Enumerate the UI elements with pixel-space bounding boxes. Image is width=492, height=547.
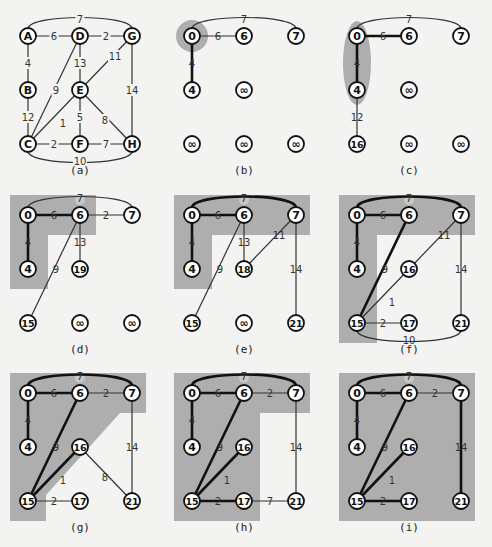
panel-h: 7624914127067416151721(h) xyxy=(174,370,310,534)
node-G: 7 xyxy=(124,385,140,401)
node-label: 4 xyxy=(353,84,361,97)
node-H: 21 xyxy=(453,493,469,509)
panel-g: 7624914182067416151721(g) xyxy=(10,370,146,534)
edge-weight: 2 xyxy=(103,31,109,42)
node-label: 4 xyxy=(188,263,196,276)
edge-weight: 2 xyxy=(267,388,273,399)
node-E: 18 xyxy=(236,261,252,277)
node-label: 4 xyxy=(188,441,196,454)
node-label: ∞ xyxy=(456,138,465,151)
node-B: 4 xyxy=(20,261,36,277)
edge-weight: 4 xyxy=(25,415,31,426)
edge-G-H: 14 xyxy=(125,36,139,144)
panel-caption: (g) xyxy=(70,521,90,534)
panel-caption: (d) xyxy=(70,343,90,356)
edge-weight: 14 xyxy=(126,442,139,453)
node-B: 4 xyxy=(184,82,200,98)
node-label: D xyxy=(75,30,84,43)
panel-caption: (i) xyxy=(399,521,419,534)
edge-weight: 14 xyxy=(290,264,303,275)
node-label: ∞ xyxy=(239,317,248,330)
node-label: 7 xyxy=(128,209,136,222)
node-A: 0 xyxy=(184,28,200,44)
node-D: 6 xyxy=(72,207,88,223)
node-B: 4 xyxy=(184,439,200,455)
node-label: 18 xyxy=(237,264,251,275)
edge-weight: 6 xyxy=(51,31,57,42)
node-G: 7 xyxy=(453,385,469,401)
edge-weight: 14 xyxy=(290,442,303,453)
edge-A-G: 7 xyxy=(28,13,132,28)
node-label: 4 xyxy=(24,441,32,454)
edge-weight: 11 xyxy=(273,230,286,241)
node-label: 16 xyxy=(350,139,364,150)
edge-weight: 9 xyxy=(382,264,388,275)
edge-weight: 4 xyxy=(189,237,195,248)
node-label: 4 xyxy=(24,263,32,276)
node-label: 15 xyxy=(350,318,363,329)
edge-weight: 9 xyxy=(53,442,59,453)
node-A: 0 xyxy=(184,385,200,401)
node-D: 6 xyxy=(236,385,252,401)
edge-A-G: 7 xyxy=(357,13,461,28)
node-H: 21 xyxy=(453,315,469,331)
node-label: 17 xyxy=(402,496,415,507)
node-A: 0 xyxy=(184,207,200,223)
panel-d: 762413906741915∞∞(d) xyxy=(10,192,140,356)
node-label: 6 xyxy=(240,209,248,222)
node-B: 4 xyxy=(20,439,36,455)
edge-weight: 4 xyxy=(354,415,360,426)
edge-weight: 12 xyxy=(22,112,35,123)
node-H: ∞ xyxy=(288,136,304,152)
node-label: 17 xyxy=(237,496,250,507)
edge-E-H: 8 xyxy=(80,90,132,144)
edge-weight: 2 xyxy=(51,496,57,507)
node-E: E xyxy=(72,82,88,98)
panel-f: 764119141210067416151721(f) xyxy=(339,192,475,356)
node-D: 6 xyxy=(72,385,88,401)
node-label: 17 xyxy=(73,496,86,507)
node-label: 16 xyxy=(402,264,416,275)
node-label: ∞ xyxy=(291,138,300,151)
edge-weight: 7 xyxy=(77,371,83,382)
node-H: 21 xyxy=(288,493,304,509)
node-label: 0 xyxy=(188,387,196,400)
edge-A-G: 7 xyxy=(192,13,296,28)
edge-weight: 8 xyxy=(102,115,108,126)
edge-weight: 1 xyxy=(60,475,66,486)
edge-weight: 9 xyxy=(217,442,223,453)
node-C: 15 xyxy=(20,315,36,331)
node-label: 21 xyxy=(289,496,302,507)
node-label: 0 xyxy=(188,209,196,222)
node-E: ∞ xyxy=(401,82,417,98)
edge-weight: 7 xyxy=(406,193,412,204)
edge-weight: 1 xyxy=(224,475,230,486)
edge-weight: 11 xyxy=(109,51,122,62)
node-label: 7 xyxy=(292,387,300,400)
node-label: 7 xyxy=(128,387,136,400)
panel-c: 764120674∞16∞∞(c) xyxy=(343,13,469,177)
node-label: 0 xyxy=(24,387,32,400)
node-H: ∞ xyxy=(124,315,140,331)
edge-weight: 6 xyxy=(51,210,57,221)
node-E: 16 xyxy=(236,439,252,455)
node-label: 15 xyxy=(21,318,34,329)
edge-weight: 2 xyxy=(51,139,57,150)
edge-weight: 4 xyxy=(25,58,31,69)
edge-weight: 4 xyxy=(25,237,31,248)
edge-weight: 2 xyxy=(103,210,109,221)
node-label: 0 xyxy=(353,30,361,43)
node-B: 4 xyxy=(349,439,365,455)
edge-weight: 14 xyxy=(126,85,139,96)
node-label: 6 xyxy=(405,387,413,400)
edge-weight: 4 xyxy=(354,58,360,69)
edge-weight: 9 xyxy=(53,264,59,275)
node-C: C xyxy=(20,136,36,152)
node-label: 16 xyxy=(73,442,87,453)
node-B: 4 xyxy=(184,261,200,277)
edge-weight: 7 xyxy=(267,496,273,507)
node-B: B xyxy=(20,82,36,98)
panel-i: 762491412067416151721(i) xyxy=(339,370,475,534)
panel-caption: (h) xyxy=(234,521,254,534)
edge-weight: 6 xyxy=(51,388,57,399)
